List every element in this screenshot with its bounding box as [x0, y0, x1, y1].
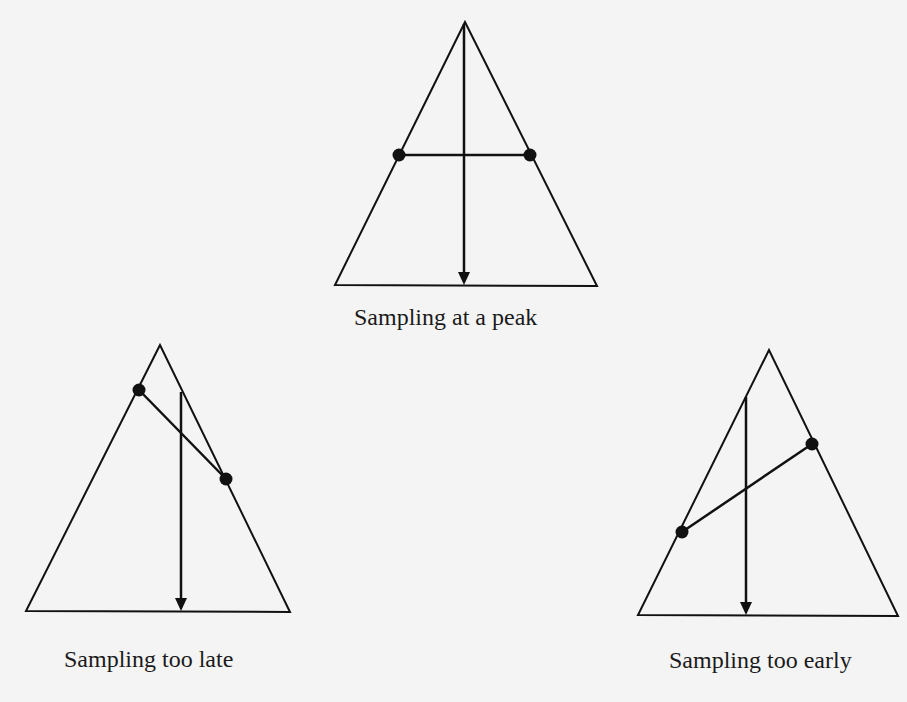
panel-late	[26, 345, 290, 612]
panel-peak	[335, 22, 597, 286]
panel-early	[638, 350, 898, 616]
arrow-down-icon	[175, 598, 187, 611]
triangle-late	[26, 345, 290, 612]
arrow-down-icon	[458, 272, 470, 285]
sample-dot-peak-1	[393, 149, 406, 162]
label-sampling-at-peak: Sampling at a peak	[354, 305, 537, 329]
triangle-early	[638, 350, 898, 616]
label-sampling-too-late: Sampling too late	[64, 647, 233, 671]
sample-line-late	[139, 390, 226, 479]
label-sampling-too-early: Sampling too early	[669, 648, 852, 672]
sample-dot-late-1	[133, 384, 146, 397]
arrow-down-icon	[740, 602, 752, 615]
sample-dot-early-2	[806, 438, 819, 451]
sample-dot-early-1	[676, 526, 689, 539]
sampling-diagram	[0, 0, 907, 702]
sample-dot-late-2	[220, 473, 233, 486]
sample-dot-peak-2	[524, 149, 537, 162]
